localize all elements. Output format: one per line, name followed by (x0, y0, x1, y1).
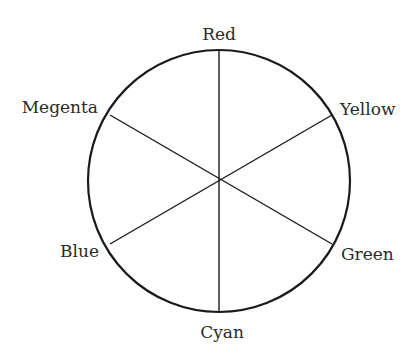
label-green: Green (341, 244, 394, 264)
label-yellow: Yellow (339, 99, 396, 119)
label-megenta: Megenta (22, 97, 98, 117)
label-red: Red (202, 24, 236, 44)
label-blue: Blue (60, 241, 99, 261)
color-wheel-diagram: Red Yellow Green Cyan Blue Megenta (0, 0, 420, 361)
label-cyan: Cyan (200, 322, 244, 342)
